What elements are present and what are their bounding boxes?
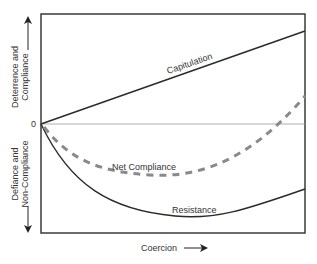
svg-text:Compliance: Compliance <box>20 53 30 101</box>
y-axis-positive-label: Deterrence and Compliance <box>10 46 30 108</box>
svg-text:Non-Compliance: Non-Compliance <box>20 140 30 207</box>
x-axis-label: Coercion <box>141 243 177 253</box>
capitulation-curve <box>41 31 305 124</box>
plot-frame <box>41 14 305 233</box>
net-compliance-label: Net Compliance <box>112 162 176 172</box>
y-axis-negative-label: Defiance and Non-Compliance <box>10 140 30 207</box>
coercion-diagram: Capitulation Net Compliance Resistance 0… <box>0 0 317 264</box>
svg-text:Defiance and: Defiance and <box>10 147 20 200</box>
zero-label: 0 <box>31 119 36 129</box>
resistance-label: Resistance <box>172 205 217 215</box>
svg-text:Deterrence and: Deterrence and <box>10 46 20 108</box>
